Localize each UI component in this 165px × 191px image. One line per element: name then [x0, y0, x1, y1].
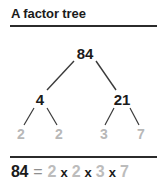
equation-left-value: 84 — [11, 163, 28, 181]
branch-left-left — [24, 108, 34, 125]
tree-leaf-node: 7 — [137, 126, 145, 142]
multiplication-sign: x — [60, 165, 67, 180]
branch-right-left — [105, 108, 114, 125]
divider-bottom — [10, 156, 157, 158]
branch-root-right — [96, 61, 116, 90]
factor-tree-diagram: 84 4 21 2 2 3 7 — [0, 32, 165, 152]
branch-right-right — [130, 108, 139, 125]
tree-leaf-node: 3 — [100, 126, 108, 142]
tree-node-right: 21 — [114, 91, 131, 108]
multiplication-sign: x — [85, 165, 92, 180]
equals-sign: = — [33, 163, 42, 181]
tree-node-left: 4 — [36, 91, 44, 108]
tree-leaf-node: 2 — [55, 126, 63, 142]
tree-leaf-node: 2 — [17, 126, 25, 142]
page-title: A factor tree — [11, 6, 86, 21]
equation-factor: 7 — [120, 163, 129, 181]
divider-top — [10, 25, 157, 27]
branch-root-left — [47, 61, 74, 90]
equation-factor: 2 — [72, 163, 81, 181]
factorization-equation: 84 = 2 x 2 x 3 x 7 — [11, 163, 129, 181]
equation-factor: 3 — [96, 163, 105, 181]
multiplication-sign: x — [109, 165, 116, 180]
branch-left-right — [47, 108, 57, 125]
equation-factor: 2 — [48, 163, 57, 181]
factor-tree-card: A factor tree 84 4 21 2 2 3 7 84 = 2 — [0, 0, 165, 191]
tree-node-root: 84 — [77, 45, 94, 62]
